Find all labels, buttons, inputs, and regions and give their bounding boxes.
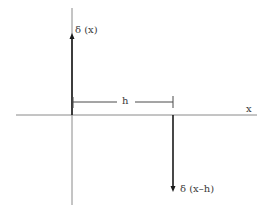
diagram-canvas: δ (x) h x δ (x–h) [0,0,267,216]
label-x-axis: x [246,104,252,114]
arrow-down-icon [171,186,176,192]
impulse-delta-x [70,33,75,115]
label-offset-h: h [122,96,128,106]
arrow-up-icon [70,33,75,39]
label-delta-x-minus-h: δ (x–h) [180,184,214,194]
label-delta-x: δ (x) [75,25,98,35]
impulse-delta-x-minus-h [171,115,176,192]
